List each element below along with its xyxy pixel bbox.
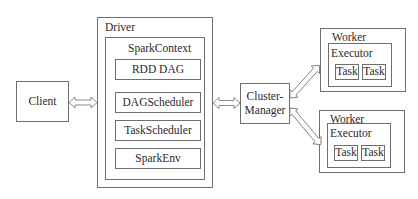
cluster-worker2-double-arrow-icon	[286, 104, 325, 148]
cluster-worker1-double-arrow-icon	[286, 62, 324, 102]
connector-arrows	[0, 0, 418, 199]
client-driver-double-arrow-icon	[69, 97, 97, 108]
driver-cluster-double-arrow-icon	[213, 98, 240, 109]
